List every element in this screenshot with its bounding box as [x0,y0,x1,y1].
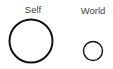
world-circle [84,42,103,61]
world-label: World [81,6,106,16]
self-label: Self [25,5,41,15]
self-world-diagram: Self World [0,0,113,69]
self-circle [10,20,53,63]
